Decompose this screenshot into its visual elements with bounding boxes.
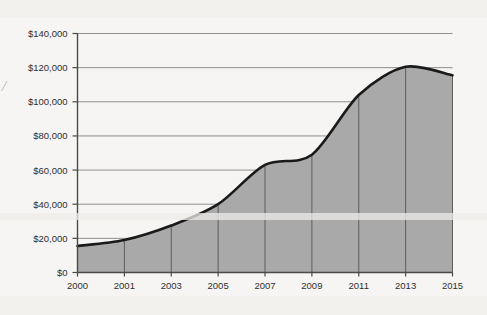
x-tick-label-2011: 2011 — [349, 280, 369, 291]
area-chart-figure: / $0$20,000$40,000$60,000$80,000$100,000… — [0, 0, 487, 315]
x-tick-label-2003: 2003 — [161, 280, 182, 291]
y-tick-label: $0 — [57, 267, 68, 278]
x-tick-label-2009: 2009 — [301, 280, 322, 291]
y-tick-label: $40,000 — [33, 199, 67, 210]
x-tick-label-2005: 2005 — [208, 280, 229, 291]
x-tick-label-2015: 2015 — [442, 280, 463, 291]
y-tick-label: $120,000 — [28, 62, 68, 73]
x-tick-label-2000: 2000 — [67, 280, 88, 291]
chart-canvas: $0$20,000$40,000$60,000$80,000$100,000$1… — [0, 0, 487, 315]
x-tick-label-2007: 2007 — [254, 280, 275, 291]
y-tick-label: $80,000 — [33, 130, 67, 141]
y-tick-label: $100,000 — [28, 96, 68, 107]
x-tick-label-2013: 2013 — [395, 280, 416, 291]
y-tick-label: $140,000 — [28, 28, 68, 39]
x-axis-tick-labels: 200020012003200520072009201120132015 — [67, 280, 463, 291]
x-tick-label-2001: 2001 — [114, 280, 135, 291]
y-axis-tick-labels: $0$20,000$40,000$60,000$80,000$100,000$1… — [28, 28, 68, 278]
y-tick-label: $60,000 — [33, 165, 67, 176]
y-tick-label: $20,000 — [33, 233, 67, 244]
